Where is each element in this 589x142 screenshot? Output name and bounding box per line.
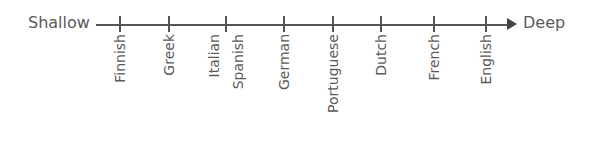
tick-mark <box>168 16 170 32</box>
language-label-portuguese: Portuguese <box>325 34 341 113</box>
language-label-dutch: Dutch <box>373 34 389 76</box>
tick-mark <box>485 16 487 32</box>
language-label-german: German <box>276 34 292 90</box>
tick-mark <box>119 16 121 32</box>
tick-mark <box>433 16 435 32</box>
language-label-french: French <box>426 34 442 81</box>
deep-label: Deep <box>523 13 565 32</box>
language-label-english: English <box>478 34 494 85</box>
shallow-label: Shallow <box>28 13 90 32</box>
tick-mark <box>332 16 334 32</box>
tick-mark <box>283 16 285 32</box>
language-label-spanish: Spanish <box>230 34 246 89</box>
tick-mark <box>225 16 227 32</box>
axis-line <box>96 24 509 26</box>
language-label-greek: Greek <box>161 34 177 76</box>
language-label-finnish: Finnish <box>112 34 128 83</box>
tick-mark <box>380 16 382 32</box>
language-label-italian: Italian <box>206 34 222 77</box>
arrow-head-icon <box>507 18 517 30</box>
